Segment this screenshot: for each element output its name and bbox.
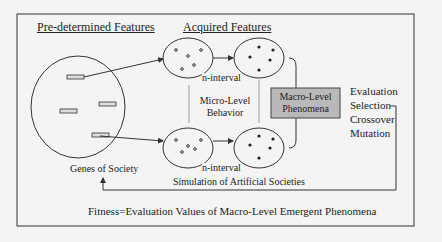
fitness-label: Fitness=Evaluation Values of Macro-Level…	[88, 206, 376, 217]
ga-step-crossover: Crossover	[350, 112, 398, 126]
macro-level-line2: Phenomena	[271, 104, 340, 114]
micro-level-label: Micro-Level Behavior	[198, 96, 252, 118]
ga-step-mutation: Mutation	[350, 126, 398, 140]
simulation-label: Simulation of Artificial Societies	[173, 177, 305, 187]
genes-of-society-label: Genes of Society	[70, 164, 138, 174]
heading-predetermined: Pre-determined Features	[37, 21, 155, 33]
micro-ellipse-bottom-acquired	[234, 128, 284, 168]
macro-level-line1: Macro-Level	[271, 92, 340, 102]
ga-step-selection: Selection	[350, 98, 398, 112]
interval-label-bottom: n-interval	[202, 163, 241, 173]
gene-bar	[67, 75, 84, 79]
ga-steps: Evaluation Selection Crossover Mutation	[350, 84, 398, 140]
micro-level-line1: Micro-Level	[198, 96, 252, 106]
ga-step-evaluation: Evaluation	[350, 84, 398, 98]
micro-level-line2: Behavior	[198, 108, 252, 118]
heading-acquired: Acquired Features	[183, 21, 271, 33]
interval-label-top: n-interval	[202, 73, 241, 83]
micro-ellipse-top-acquired	[234, 38, 284, 78]
arrow-gene-bottom	[100, 136, 163, 141]
arrow-gene-top	[84, 59, 163, 77]
gene-bar	[60, 109, 77, 113]
macro-level-label: Macro-Level Phenomena	[271, 92, 340, 114]
gene-bar	[99, 102, 116, 106]
